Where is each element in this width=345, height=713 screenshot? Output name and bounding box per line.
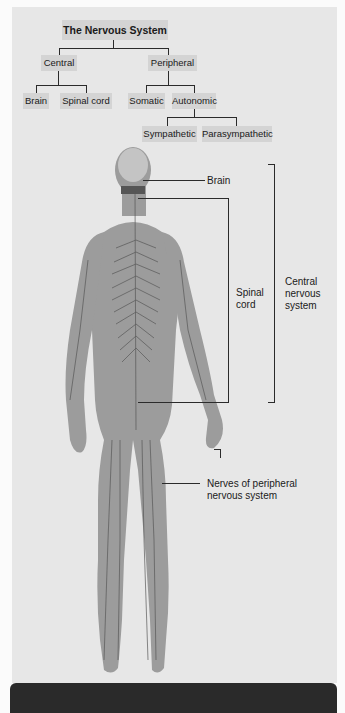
pns-leader-line — [162, 483, 200, 484]
cns-bracket-bottom — [268, 402, 275, 403]
spinal-cord-bracket-bottom — [138, 402, 229, 403]
pns-leader-hook-vertical — [220, 449, 221, 458]
label-spinal-cord: Spinal cord — [236, 287, 264, 311]
label-line: Nerves of peripheral — [207, 478, 297, 490]
spinal-cord-bracket-side — [228, 198, 229, 403]
spinal-cord-bracket-top — [138, 198, 229, 199]
cns-bracket-side — [274, 164, 275, 403]
label-peripheral-nervous-system: Nerves of peripheral nervous system — [207, 478, 297, 502]
label-line: Central — [285, 276, 321, 288]
label-brain: Brain — [207, 175, 230, 187]
label-central-nervous-system: Central nervous system — [285, 276, 321, 312]
label-line: cord — [236, 299, 264, 311]
bottom-bar — [10, 683, 337, 713]
label-line: nervous system — [207, 490, 297, 502]
label-line: nervous — [285, 288, 321, 300]
brain-leader-line — [143, 180, 205, 181]
label-line: system — [285, 300, 321, 312]
label-line: Spinal — [236, 287, 264, 299]
